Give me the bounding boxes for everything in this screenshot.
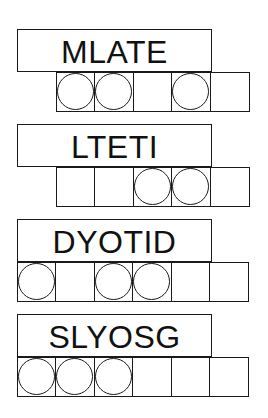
answer-cell-6[interactable] bbox=[209, 262, 249, 302]
answer-cell-2-circled[interactable] bbox=[55, 357, 95, 397]
answer-cell-1[interactable] bbox=[56, 167, 96, 207]
answer-cell-1-circled[interactable] bbox=[56, 72, 96, 112]
answer-cell-5[interactable] bbox=[171, 357, 211, 397]
answer-cells bbox=[17, 357, 249, 397]
answer-cell-5[interactable] bbox=[210, 72, 250, 112]
answer-cells bbox=[56, 167, 250, 207]
answer-cell-2[interactable] bbox=[94, 167, 134, 207]
answer-cell-4-circled[interactable] bbox=[171, 167, 211, 207]
answer-cell-5[interactable] bbox=[171, 262, 211, 302]
answer-cell-4-circled[interactable] bbox=[132, 262, 172, 302]
scrambled-word-box: SLYOSG bbox=[17, 314, 212, 357]
answer-cell-5[interactable] bbox=[210, 167, 250, 207]
answer-cell-2-circled[interactable] bbox=[94, 72, 134, 112]
scrambled-word: SLYOSG bbox=[48, 321, 180, 353]
scrambled-word-box: LTETI bbox=[17, 124, 212, 167]
answer-cell-6[interactable] bbox=[209, 357, 249, 397]
answer-cell-4[interactable] bbox=[132, 357, 172, 397]
scrambled-word: MLATE bbox=[61, 36, 168, 68]
answer-cell-3-circled[interactable] bbox=[94, 357, 134, 397]
answer-cell-1-circled[interactable] bbox=[17, 262, 57, 302]
scrambled-word: LTETI bbox=[71, 131, 158, 163]
answer-cell-2[interactable] bbox=[55, 262, 95, 302]
answer-cell-3-circled[interactable] bbox=[94, 262, 134, 302]
answer-cell-3-circled[interactable] bbox=[133, 167, 173, 207]
scrambled-word-box: DYOTID bbox=[17, 219, 212, 262]
answer-cell-1-circled[interactable] bbox=[17, 357, 57, 397]
scrambled-word-box: MLATE bbox=[17, 29, 212, 72]
answer-cell-4-circled[interactable] bbox=[171, 72, 211, 112]
answer-cell-3[interactable] bbox=[133, 72, 173, 112]
answer-cells bbox=[56, 72, 250, 112]
answer-cells bbox=[17, 262, 249, 302]
scrambled-word: DYOTID bbox=[53, 226, 177, 258]
